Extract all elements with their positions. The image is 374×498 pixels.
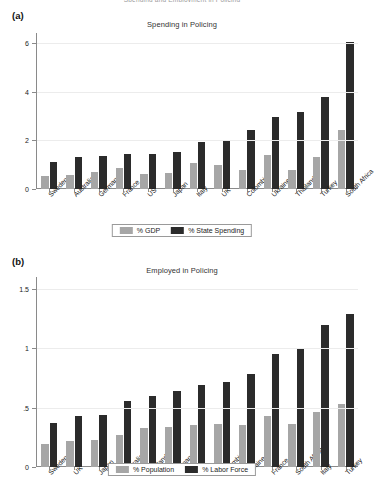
legend-label: % Population <box>133 466 174 473</box>
bar-group: Sweden <box>37 277 62 467</box>
panel-a-y-tick-label: 6 <box>25 39 29 46</box>
bar-light <box>239 425 246 467</box>
bar-group: Colombia <box>210 277 235 467</box>
panel-b-y-tick <box>32 467 36 468</box>
bar-group: US <box>136 33 161 189</box>
bar-dark <box>198 142 205 189</box>
bar-group: Germany <box>86 33 111 189</box>
bar-dark <box>99 415 106 467</box>
legend-swatch-light <box>116 466 129 473</box>
bar-light <box>66 175 73 189</box>
bar-light <box>91 440 98 467</box>
bar-group: Turkey <box>309 33 334 189</box>
bar-group: Germany <box>160 277 185 467</box>
bar-light <box>165 427 172 467</box>
legend-item: % Labor Force <box>185 466 248 473</box>
panel-a-y-tick <box>32 140 36 141</box>
bar-group: Japan <box>86 277 111 467</box>
bar-group: South Africa <box>284 277 309 467</box>
bar-group: Colombia <box>235 33 260 189</box>
bar-light <box>190 163 197 189</box>
panel-a-y-tick <box>32 189 36 190</box>
bar-light <box>214 165 221 189</box>
bar-group: UK <box>62 277 87 467</box>
bar-light <box>116 168 123 189</box>
bar-light <box>338 130 345 189</box>
bar-dark <box>223 382 230 468</box>
panel-b-y-tick-label: 1 <box>25 345 29 352</box>
legend-swatch-dark <box>171 227 184 234</box>
bar-dark <box>173 391 180 467</box>
bar-group: Turkey <box>333 277 358 467</box>
bar-light <box>165 173 172 189</box>
bar-group: Australia <box>62 33 87 189</box>
bar-dark <box>346 42 353 189</box>
legend-swatch-dark <box>185 466 198 473</box>
panel-b-y-tick <box>32 408 36 409</box>
bar-group: UK <box>210 33 235 189</box>
panel-a-gridline <box>37 43 358 44</box>
bar-group: Italy <box>309 277 334 467</box>
bar-light <box>190 425 197 467</box>
bar-dark <box>75 416 82 467</box>
bar-dark <box>247 374 254 467</box>
bar-light <box>91 172 98 189</box>
legend-label: % GDP <box>137 227 160 234</box>
bar-dark <box>149 154 156 189</box>
bar-light <box>140 174 147 189</box>
bar-light <box>313 412 320 467</box>
bar-light <box>214 424 221 467</box>
bar-light <box>239 170 246 189</box>
panel-a: (a) Spending in Policing SwedenAustralia… <box>0 6 364 246</box>
bar-group: Australia <box>111 277 136 467</box>
panel-b-title: Employed in Policing <box>0 266 364 275</box>
panel-b-gridline <box>37 348 358 349</box>
panel-b-bars: SwedenUKJapanAustraliaThailandGermanyUSC… <box>37 277 358 467</box>
panel-a-legend: % GDP% State Spending <box>112 224 252 237</box>
bar-group: Ukraine <box>259 33 284 189</box>
legend-item: % State Spending <box>171 227 244 234</box>
bar-light <box>313 157 320 189</box>
panel-b: (b) Employed in Policing SwedenUKJapanAu… <box>0 252 364 498</box>
bar-light <box>41 176 48 189</box>
bar-group: Sweden <box>37 33 62 189</box>
legend-label: % Labor Force <box>202 466 248 473</box>
bar-dark <box>321 325 328 468</box>
running-title: Spending and Employment in Policing <box>0 0 364 2</box>
bar-dark <box>223 140 230 189</box>
panel-a-title: Spending in Policing <box>0 20 364 29</box>
panel-b-gridline <box>37 289 358 290</box>
bar-dark <box>297 112 304 189</box>
legend-swatch-light <box>120 227 133 234</box>
panel-b-y-tick <box>32 348 36 349</box>
bar-group: Japan <box>160 33 185 189</box>
legend-label: % State Spending <box>188 227 244 234</box>
panel-a-y-tick-label: 4 <box>25 88 29 95</box>
bar-dark <box>272 354 279 467</box>
bar-light <box>41 444 48 467</box>
bar-group: Italy <box>185 33 210 189</box>
legend-item: % Population <box>116 466 174 473</box>
panel-a-y-tick <box>32 43 36 44</box>
bar-light <box>288 170 295 189</box>
panel-a-y-tick-label: 0 <box>25 186 29 193</box>
panel-b-y-tick-label: .5 <box>23 404 29 411</box>
panel-b-legend: % Population% Labor Force <box>108 463 256 476</box>
panel-a-y-tick <box>32 92 36 93</box>
bar-light <box>264 155 271 189</box>
panel-b-plot-area: SwedenUKJapanAustraliaThailandGermanyUSC… <box>36 277 358 467</box>
bar-light <box>66 441 73 467</box>
legend-item: % GDP <box>120 227 160 234</box>
bar-light <box>338 404 345 467</box>
bar-group: Thailand <box>284 33 309 189</box>
panel-a-gridline <box>37 92 358 93</box>
panel-b-y-tick-label: 1.5 <box>19 285 29 292</box>
panel-b-gridline <box>37 408 358 409</box>
bar-dark <box>321 97 328 189</box>
bar-dark <box>149 396 156 467</box>
bar-group: Thailand <box>136 277 161 467</box>
bar-light <box>264 416 271 467</box>
panel-b-y-tick-label: 0 <box>25 464 29 471</box>
bar-group: France <box>111 33 136 189</box>
